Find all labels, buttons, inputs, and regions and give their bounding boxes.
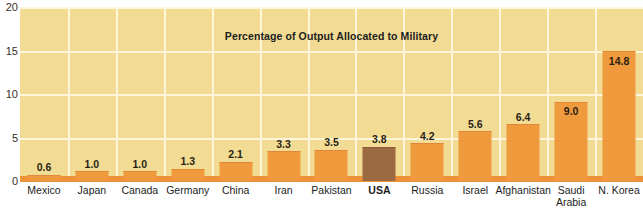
bar [603,51,636,181]
bar [411,143,444,181]
bar-value-label: 9.0 [564,106,579,117]
bar [315,150,348,181]
y-tick-label: 5 [12,132,18,143]
bar [363,147,396,181]
bar-value-label: 3.5 [324,137,339,148]
y-tick-label: 10 [6,89,18,100]
bar-value-label: 4.2 [420,131,435,142]
y-tick-label: 15 [6,45,18,56]
bar [27,175,60,181]
bar-value-label: 5.6 [468,119,483,130]
bar-value-label: 1.3 [180,156,195,167]
bar [219,162,252,181]
x-axis-category-labels: MexicoJapanCanadaGermanyChinaIranPakista… [20,184,643,219]
bar [75,171,108,181]
bar-value-label: 14.8 [609,56,629,67]
bar [171,169,204,181]
chart-title: Percentage of Output Allocated to Milita… [20,30,643,42]
bar-value-label: 3.8 [372,134,387,145]
y-axis: 05101520 [0,0,18,182]
bar-value-label: 1.0 [85,159,100,170]
bar [459,131,492,181]
bar-value-label: 6.4 [516,112,531,123]
bar [123,171,156,181]
bar-value-label: 0.6 [37,162,52,173]
bar-value-label: 1.0 [132,159,147,170]
bar [507,124,540,181]
y-tick-label: 20 [6,2,18,13]
category-label: N. Korea [591,184,643,196]
bar-value-label: 3.3 [276,139,291,150]
bar [267,151,300,181]
plot-area: Percentage of Output Allocated to Milita… [20,7,643,181]
military-spending-bar-chart: 05101520 Percentage of Output Allocated … [0,0,643,219]
bar-value-label: 2.1 [228,149,243,160]
